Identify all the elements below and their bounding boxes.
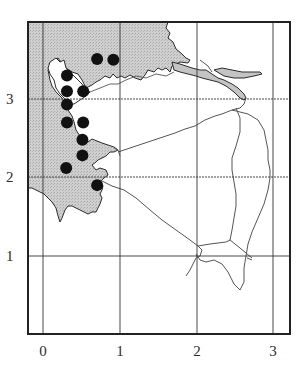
occurrence-dot xyxy=(61,98,73,110)
occurrence-dot xyxy=(77,116,89,128)
occurrence-dot xyxy=(61,85,73,97)
occurrence-dot xyxy=(76,134,88,146)
occurrence-dot xyxy=(61,116,73,128)
occurrence-dot xyxy=(91,179,103,191)
y-tick-label: 1 xyxy=(6,249,14,264)
y-tick-label: 3 xyxy=(6,92,14,107)
occurrence-dot xyxy=(60,162,72,174)
estuary-arm xyxy=(214,68,262,78)
distribution-map xyxy=(0,0,307,375)
y-tick-label: 2 xyxy=(6,170,14,185)
x-tick-label: 3 xyxy=(269,344,277,359)
occurrence-dot xyxy=(91,53,103,65)
occurrence-dot xyxy=(76,149,88,161)
x-tick-label: 2 xyxy=(193,344,201,359)
x-tick-label: 0 xyxy=(39,344,47,359)
occurrence-dot xyxy=(107,54,119,66)
land-mass xyxy=(28,22,190,222)
x-tick-label: 1 xyxy=(116,344,124,359)
occurrence-dot xyxy=(61,70,73,82)
occurrence-dot xyxy=(77,85,89,97)
